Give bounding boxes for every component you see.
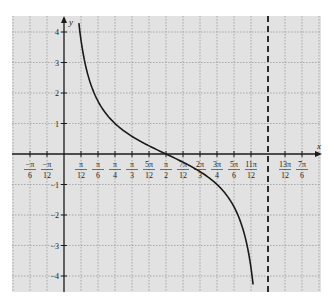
y-tick-label: 2: [55, 89, 59, 98]
cotangent-chart: x y −π6−π12π12π6π4π35π12π27π122π33π45π61…: [0, 0, 331, 308]
x-tick-numerator: 5π: [230, 160, 238, 169]
x-tick-numerator: π: [164, 160, 168, 169]
x-tick-denominator: 4: [113, 171, 117, 180]
y-tick-label: 4: [55, 28, 59, 37]
x-tick-numerator: π: [113, 160, 117, 169]
x-tick-numerator: π: [130, 160, 134, 169]
y-tick-label: −2: [50, 211, 59, 220]
x-tick-denominator: 12: [179, 171, 187, 180]
x-tick-denominator: 6: [232, 171, 236, 180]
x-tick-denominator: 3: [130, 171, 134, 180]
x-tick-numerator: −π: [26, 160, 35, 169]
x-tick-numerator: 3π: [213, 160, 221, 169]
x-tick-denominator: 4: [215, 171, 219, 180]
x-tick-denominator: 6: [28, 171, 32, 180]
x-tick-numerator: π: [96, 160, 100, 169]
x-tick-numerator: π: [79, 160, 83, 169]
x-tick-numerator: 7π: [298, 160, 306, 169]
x-tick-numerator: 2π: [196, 160, 204, 169]
x-tick-numerator: −π: [43, 160, 52, 169]
x-tick-numerator: 11π: [245, 160, 257, 169]
x-tick-denominator: 12: [145, 171, 153, 180]
x-tick-denominator: 6: [300, 171, 304, 180]
x-tick-denominator: 2: [164, 171, 168, 180]
x-tick-denominator: 12: [43, 171, 51, 180]
y-tick-label: −3: [50, 242, 59, 251]
x-tick-denominator: 12: [281, 171, 289, 180]
x-tick-numerator: 13π: [279, 160, 291, 169]
y-tick-label: −1: [50, 181, 59, 190]
y-tick-label: −4: [50, 272, 59, 281]
x-tick-denominator: 6: [96, 171, 100, 180]
x-tick-denominator: 12: [77, 171, 85, 180]
x-tick-numerator: 5π: [145, 160, 153, 169]
x-axis-label: x: [316, 141, 321, 151]
x-tick-denominator: 12: [247, 171, 255, 180]
y-tick-label: 1: [55, 120, 59, 129]
y-tick-label: 3: [55, 59, 59, 68]
y-axis-label: y: [68, 17, 73, 27]
